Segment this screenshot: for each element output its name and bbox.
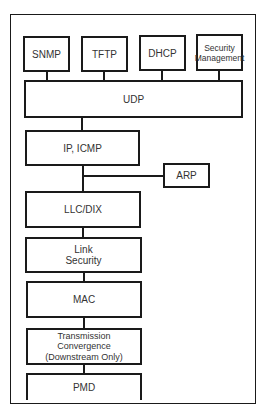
dhcp-box: DHCP	[139, 35, 186, 71]
transmission-convergence-label: Transmission Convergence (Downstream Onl…	[45, 331, 123, 363]
mac-label: MAC	[73, 294, 95, 305]
transmission-convergence-box: Transmission Convergence (Downstream Onl…	[26, 328, 142, 365]
dhcp-label: DHCP	[148, 48, 176, 59]
llc-dix-label: LLC/DIX	[64, 204, 102, 215]
snmp-box: SNMP	[23, 36, 70, 72]
mac-box: MAC	[26, 281, 142, 318]
ip-icmp-box: IP, ICMP	[25, 130, 140, 166]
connector-arp	[82, 175, 164, 177]
connector-ip-llc	[82, 165, 84, 192]
link-security-label: Link Security	[65, 244, 101, 266]
pmd-box: PMD	[26, 373, 142, 400]
connector-udp-ip	[81, 117, 83, 131]
arp-label: ARP	[176, 170, 197, 181]
udp-label: UDP	[123, 94, 144, 105]
arp-box: ARP	[163, 163, 210, 188]
pmd-label: PMD	[73, 382, 95, 393]
security-management-label: Security Management	[195, 43, 245, 63]
tftp-label: TFTP	[92, 49, 117, 60]
snmp-label: SNMP	[32, 49, 61, 60]
udp-box: UDP	[24, 80, 243, 118]
llc-dix-box: LLC/DIX	[25, 191, 141, 228]
link-security-box: Link Security	[25, 237, 142, 273]
tftp-box: TFTP	[81, 36, 128, 72]
security-management-box: Security Management	[196, 34, 243, 71]
ip-icmp-label: IP, ICMP	[63, 143, 102, 154]
